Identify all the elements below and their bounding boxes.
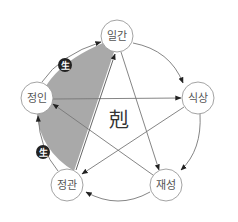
node-siksang: 식상: [182, 82, 214, 114]
badge-generate-top: 生: [58, 58, 72, 72]
node-jeongin: 정인: [21, 82, 53, 114]
node-jaeseong: 재성: [150, 169, 182, 201]
arc-ilgan-siksang: [133, 43, 183, 83]
node-label: 일간: [107, 29, 127, 43]
arc-siksang-jaeseong: [181, 114, 200, 170]
node-label: 식상: [188, 92, 208, 105]
line-siksang-jeonggwan: [82, 107, 184, 174]
node-jeonggwan: 정관: [51, 169, 83, 201]
node-label: 재성: [156, 179, 176, 192]
five-elements-diagram: 일간 식상 재성 정관 정인 剋 生 生: [0, 0, 238, 222]
node-ilgan: 일간: [101, 20, 133, 52]
center-label: 剋: [109, 108, 129, 132]
badge-label: 生: [61, 60, 70, 71]
node-label: 정인: [27, 92, 47, 105]
badge-label: 生: [39, 147, 48, 158]
arc-jaeseong-jeonggwan: [86, 192, 150, 201]
badge-generate-bottom: 生: [36, 145, 50, 159]
node-label: 정관: [57, 179, 77, 192]
